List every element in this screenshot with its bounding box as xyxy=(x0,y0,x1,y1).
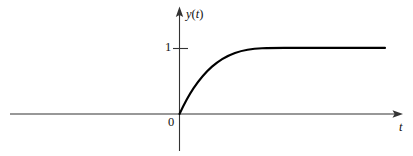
saturation-curve xyxy=(180,48,386,114)
figure-root: y(t) t 1 0 xyxy=(0,0,413,156)
y-axis-label-paren-close: ) xyxy=(199,7,203,21)
y-axis-label: y(t) xyxy=(186,8,203,21)
plot-canvas xyxy=(0,0,413,156)
x-axis-label: t xyxy=(399,121,402,134)
origin-label: 0 xyxy=(168,116,174,129)
y-tick-label-one: 1 xyxy=(165,41,171,54)
